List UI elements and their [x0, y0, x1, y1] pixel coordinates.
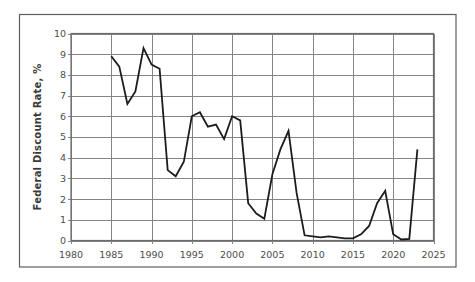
chart-figure: 1980198519901995200020052010201520202025… [0, 0, 475, 282]
y-tick-label: 1 [60, 214, 66, 225]
y-tick-label: 6 [60, 111, 66, 122]
y-tick-label: 8 [60, 69, 66, 80]
discount-rate-line-chart: 1980198519901995200020052010201520202025… [0, 0, 475, 282]
x-tick-label: 2020 [381, 249, 405, 260]
y-tick-label: 2 [60, 194, 66, 205]
x-tick-label: 1990 [139, 249, 163, 260]
y-tick-label: 3 [60, 173, 66, 184]
y-tick-label: 9 [60, 49, 66, 60]
y-tick-label: 0 [60, 235, 66, 246]
x-tick-label: 1985 [99, 249, 123, 260]
figure-border [20, 15, 457, 268]
x-tick-label: 2015 [341, 249, 365, 260]
y-tick-label: 7 [60, 90, 66, 101]
y-tick-label: 10 [54, 28, 66, 39]
x-tick-label: 2005 [260, 249, 284, 260]
x-tick-label: 1980 [59, 249, 83, 260]
x-tick-label: 2025 [421, 249, 445, 260]
y-axis-title: Federal Discount Rate, % [32, 64, 43, 211]
x-tick-label: 2010 [301, 249, 325, 260]
x-tick-label: 2000 [220, 249, 244, 260]
y-tick-label: 5 [60, 131, 66, 142]
y-tick-label: 4 [60, 152, 66, 163]
x-tick-label: 1995 [180, 249, 204, 260]
